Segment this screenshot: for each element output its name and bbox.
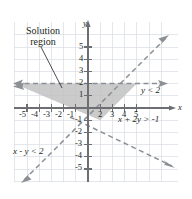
x-tick-label--2: -2 <box>55 110 62 119</box>
inequality-label-y-less-than-2: y < 2 <box>141 86 160 95</box>
x-tick-label-2: 2 <box>98 110 102 119</box>
x-tick-label--3: -3 <box>43 110 50 119</box>
y-axis-name: y <box>83 19 87 28</box>
solution-region-callout-line2: region <box>12 37 74 48</box>
y-tick-label-5: 5 <box>79 42 83 51</box>
x-axis-name: x <box>178 103 182 112</box>
x-tick-label--1: -1 <box>67 110 74 119</box>
y-tick-label-4: 4 <box>79 54 83 63</box>
inequality-graph-figure: Solution region y x -5 -4 -3 -2 -1 2 3 4… <box>0 0 192 199</box>
y-tick-label--1: -1 <box>75 115 82 124</box>
x-tick-label--5: -5 <box>19 110 26 119</box>
inequality-label-x-plus-2y-greater-than-minus-1: x + 2y > -1 <box>118 115 159 124</box>
solution-region-callout: Solution region <box>12 26 74 47</box>
y-tick-label--3: -3 <box>75 139 82 148</box>
x-tick-label--4: -4 <box>31 110 38 119</box>
solution-region-callout-line1: Solution <box>12 26 74 37</box>
y-tick-label-2: 2 <box>79 78 83 87</box>
y-tick-label--5: -5 <box>75 163 82 172</box>
y-tick-label-1: 1 <box>79 90 83 99</box>
y-tick-label--4: -4 <box>75 151 82 160</box>
y-tick-label--2: -2 <box>75 127 82 136</box>
y-tick-label-3: 3 <box>79 66 83 75</box>
x-tick-label-3: 3 <box>110 110 114 119</box>
inequality-label-x-minus-y-less-than-2: x - y < 2 <box>13 147 44 156</box>
